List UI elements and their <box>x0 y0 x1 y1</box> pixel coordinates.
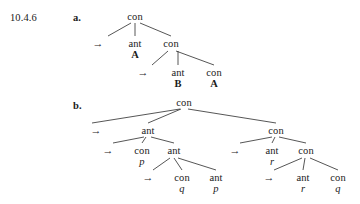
a-arrow-2-rightwards-arrow-icon: → <box>138 67 149 78</box>
a-l2-ant: ant <box>171 67 184 78</box>
b-edge-rcon-con <box>279 137 306 143</box>
a-l2-ant-atom: B <box>174 78 181 89</box>
b-edge-rcon-ant <box>272 137 275 143</box>
a-edge-root-left <box>108 23 131 36</box>
a-arrow-1-rightwards-arrow-icon: → <box>93 38 104 49</box>
b-edge-rcon-left <box>240 137 272 143</box>
b-l2-left-con: con <box>134 145 149 156</box>
exercise-number: 10.4.6 <box>10 12 37 23</box>
b-edge-rcon2-con <box>310 158 338 170</box>
a-l1-con: con <box>163 38 178 49</box>
b-l2-left-con-var: p <box>139 156 144 167</box>
b-l3-left-ant: ant <box>209 172 222 183</box>
b-arrow-5-rightwards-arrow-icon: → <box>264 172 275 183</box>
b-l2-right-ant-var: r <box>270 156 274 167</box>
b-l3-left-ant-var: p <box>213 183 218 194</box>
b-edge-root-left <box>92 109 180 123</box>
b-l1-ant: ant <box>141 125 154 136</box>
b-l2-right-con: con <box>298 145 313 156</box>
a-edge-con-left <box>152 51 168 65</box>
a-edge-root-con <box>140 23 171 36</box>
b-arrow-3-rightwards-arrow-icon: → <box>230 145 241 156</box>
a-root: con <box>127 11 142 22</box>
b-root: con <box>176 97 191 108</box>
b-edge-rcon2-left <box>274 158 302 170</box>
a-l1-ant: ant <box>128 38 141 49</box>
b-edge-lant-con <box>174 158 182 170</box>
b-arrow-1-rightwards-arrow-icon: → <box>91 125 102 136</box>
b-edge-root-ant <box>148 109 181 123</box>
b-edge-root-con <box>188 109 276 123</box>
b-l3-right-ant-var: r <box>301 183 305 194</box>
b-edge-lant-ant <box>178 158 216 170</box>
a-l2-con-atom: A <box>210 78 218 89</box>
a-l1-ant-atom: A <box>131 49 139 60</box>
b-arrow-4-rightwards-arrow-icon: → <box>143 172 154 183</box>
b-l2-left-ant: ant <box>167 145 180 156</box>
a-l2-con: con <box>206 67 221 78</box>
derivation-tree-figure: 10.4.6 a. b. conantAconantBconA→→conantc… <box>0 0 360 204</box>
part-label-a: a. <box>73 12 81 23</box>
b-edge-ant-left <box>113 137 144 143</box>
b-l3-right-con-var: q <box>335 183 340 194</box>
b-l1-con: con <box>268 125 283 136</box>
b-edge-ant-con <box>142 137 146 143</box>
part-label-b: b. <box>73 100 82 111</box>
b-l2-right-ant: ant <box>265 145 278 156</box>
b-arrow-2-rightwards-arrow-icon: → <box>103 145 114 156</box>
b-edge-rcon2-ant <box>303 158 305 170</box>
b-l3-right-con: con <box>330 172 345 183</box>
b-l3-left-con-var: q <box>179 183 184 194</box>
b-l3-right-ant: ant <box>296 172 309 183</box>
a-edge-con-con <box>176 51 214 65</box>
b-edge-ant-ant <box>151 137 174 143</box>
b-l3-left-con: con <box>174 172 189 183</box>
b-edge-lant-left <box>153 158 170 170</box>
